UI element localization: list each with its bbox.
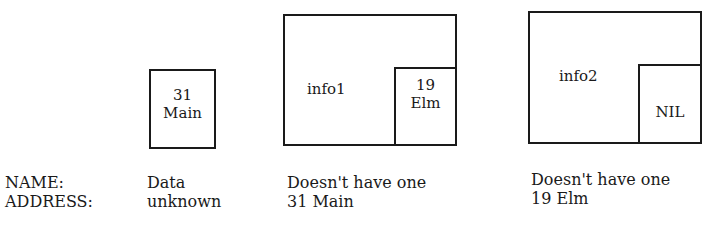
cell-line-2: Elm — [396, 95, 455, 112]
col1-name: Data — [147, 173, 185, 193]
cell-line-1: 31 — [151, 87, 214, 104]
info2-address-cell: NIL — [638, 64, 702, 144]
cell-line-2: Main — [151, 105, 214, 122]
info2-record: info2 NIL — [528, 11, 702, 144]
col3-name: Doesn't have one — [531, 170, 670, 190]
nil-value: NIL — [640, 104, 700, 121]
col1-address: unknown — [147, 192, 221, 212]
row-label-name: NAME: — [5, 173, 64, 193]
cell-line-1: 19 — [396, 77, 455, 94]
col2-address: 31 Main — [287, 192, 354, 212]
row-label-address: ADDRESS: — [5, 192, 93, 212]
info1-label: info1 — [307, 81, 346, 98]
info1-address-cell: 19 Elm — [394, 67, 457, 146]
address-cell-31-main: 31 Main — [149, 69, 216, 149]
col2-name: Doesn't have one — [287, 173, 426, 193]
col3-address: 19 Elm — [531, 189, 588, 209]
info2-label: info2 — [559, 68, 598, 85]
info1-record: info1 19 Elm — [283, 14, 457, 146]
